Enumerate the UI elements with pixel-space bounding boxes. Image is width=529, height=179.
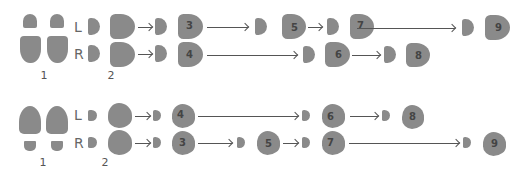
heel-print bbox=[382, 110, 390, 121]
heel-print bbox=[302, 137, 310, 148]
arrow-icon bbox=[138, 54, 152, 55]
footprint-ball-left bbox=[19, 106, 41, 134]
step-number: 5 bbox=[291, 23, 298, 33]
heel-print bbox=[155, 45, 167, 62]
ball-print: 9 bbox=[485, 15, 510, 40]
arrow-icon bbox=[135, 116, 150, 117]
ball-print: 4 bbox=[178, 42, 203, 67]
ball-print bbox=[108, 103, 132, 128]
heel-print bbox=[88, 110, 97, 121]
heel-print bbox=[463, 137, 471, 148]
step-number: 6 bbox=[327, 112, 334, 122]
arrow-icon bbox=[138, 27, 152, 28]
arrow-icon bbox=[283, 143, 298, 144]
footwork-diagram: 1 L R 3 5 7 9 4 bbox=[0, 0, 529, 179]
heel-print bbox=[88, 137, 97, 148]
arrow-icon bbox=[198, 116, 298, 117]
arrow-icon bbox=[308, 27, 322, 28]
footprint-heel-left bbox=[24, 141, 36, 151]
heel-print bbox=[462, 19, 474, 36]
step-number: 3 bbox=[179, 138, 186, 148]
footprint-heel-right bbox=[51, 141, 63, 151]
arrow-icon bbox=[207, 27, 248, 28]
ball-print: 7 bbox=[350, 14, 374, 39]
arrow-icon bbox=[357, 28, 455, 29]
side-label-left: L bbox=[74, 20, 82, 34]
step-number: 5 bbox=[265, 139, 272, 149]
step-number: 6 bbox=[335, 50, 342, 60]
arrow-icon bbox=[349, 143, 459, 144]
heel-print bbox=[384, 46, 396, 63]
ball-print bbox=[110, 42, 135, 67]
arrow-icon bbox=[207, 55, 297, 56]
step-2-label: 2 bbox=[100, 157, 110, 168]
heel-print bbox=[255, 18, 267, 35]
heel-print bbox=[88, 18, 100, 35]
heel-print bbox=[153, 137, 161, 148]
step-number: 7 bbox=[357, 21, 364, 31]
ball-print: 4 bbox=[172, 104, 195, 128]
step-number: 4 bbox=[177, 110, 184, 120]
ball-print: 8 bbox=[402, 105, 424, 129]
side-label-left: L bbox=[74, 108, 82, 122]
step-number: 3 bbox=[186, 21, 193, 31]
ball-print: 6 bbox=[325, 42, 350, 67]
arrow-icon bbox=[352, 55, 380, 56]
ball-print: 3 bbox=[172, 131, 195, 155]
heel-print bbox=[302, 110, 310, 121]
ball-print bbox=[110, 14, 135, 39]
ball-print: 3 bbox=[178, 14, 203, 39]
ball-print: 6 bbox=[322, 104, 345, 128]
footprint-ball-right bbox=[46, 106, 68, 134]
ball-print: 9 bbox=[483, 132, 506, 156]
footprint-heel-left bbox=[23, 14, 37, 28]
arrow-icon bbox=[350, 116, 378, 117]
step-1-label: 1 bbox=[39, 70, 49, 81]
ball-print: 7 bbox=[322, 131, 345, 155]
footprint-ball-left bbox=[20, 36, 41, 63]
footprint-ball-right bbox=[47, 36, 68, 63]
step-2-label: 2 bbox=[106, 70, 116, 81]
step-1-label: 1 bbox=[38, 157, 48, 168]
ball-print: 8 bbox=[406, 43, 430, 67]
step-number: 8 bbox=[409, 112, 416, 122]
ball-print: 5 bbox=[282, 14, 306, 39]
heel-print bbox=[303, 46, 315, 63]
step-number: 9 bbox=[495, 23, 502, 33]
step-number: 9 bbox=[491, 139, 498, 149]
heel-print bbox=[153, 110, 161, 121]
side-label-right: R bbox=[74, 47, 84, 61]
step-number: 8 bbox=[415, 51, 422, 61]
footprint-heel-right bbox=[50, 14, 64, 28]
heel-print bbox=[155, 18, 167, 35]
arrow-icon bbox=[135, 143, 150, 144]
ball-print bbox=[108, 130, 132, 155]
side-label-right: R bbox=[74, 136, 84, 150]
heel-print bbox=[327, 18, 339, 35]
heel-print bbox=[88, 45, 100, 62]
arrow-icon bbox=[198, 143, 232, 144]
heel-print bbox=[237, 137, 245, 148]
step-number: 4 bbox=[186, 50, 193, 60]
step-number: 7 bbox=[327, 138, 334, 148]
ball-print: 5 bbox=[257, 131, 280, 155]
